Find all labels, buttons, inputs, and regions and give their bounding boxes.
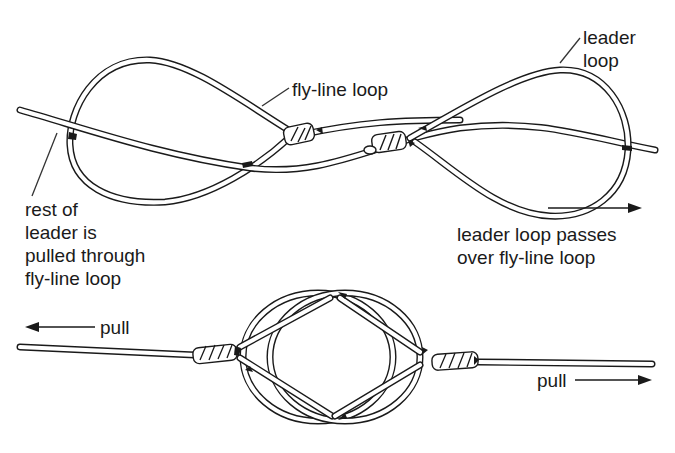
leader-loop-pointer xyxy=(560,38,580,63)
leader-strand xyxy=(20,110,655,170)
top-figure: fly-line loop leader loop rest of leader… xyxy=(20,27,655,289)
fly-line-loop-label: fly-line loop xyxy=(292,79,388,100)
right-line xyxy=(478,362,652,364)
pull-left-arrow xyxy=(25,322,95,332)
pull-right-label: pull xyxy=(537,370,567,391)
leader-loop-passes-label-line2: over fly-line loop xyxy=(457,247,595,268)
leader-loop-label-line1: leader xyxy=(583,27,636,48)
right-knot-wrap xyxy=(431,351,479,370)
leader-loop-label-line2: loop xyxy=(583,50,619,71)
knot-diagram: fly-line loop leader loop rest of leader… xyxy=(0,0,675,453)
pull-left-label: pull xyxy=(100,317,130,338)
rest-of-leader-label-line4: fly-line loop xyxy=(25,268,121,289)
bottom-figure: pull pull xyxy=(20,292,652,421)
fly-line-loop-pointer xyxy=(262,88,289,106)
leader-loop xyxy=(410,70,628,216)
left-knot-wrap xyxy=(192,344,241,365)
rest-of-leader-label-line1: rest of xyxy=(25,199,79,220)
rest-of-leader-label-line2: leader is xyxy=(25,222,97,243)
leader-loop-passes-label-line1: leader loop passes xyxy=(457,224,617,245)
rest-of-leader-label-line3: pulled through xyxy=(25,245,145,266)
pull-right-arrow xyxy=(575,375,652,385)
rest-of-leader-pointer xyxy=(32,133,57,196)
interlocked-loops xyxy=(240,292,428,421)
left-line xyxy=(20,347,195,355)
